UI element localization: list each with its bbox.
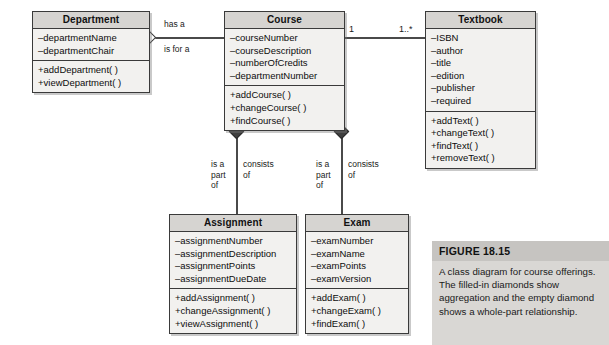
- operations-department: +addDepartment( ) +viewDepartment( ): [33, 61, 149, 92]
- edge-label-exam-consists-of: consists of: [348, 159, 379, 180]
- class-name-department: Department: [33, 12, 149, 29]
- attribute: –ISBN: [426, 32, 535, 45]
- operation: +findText( ): [426, 140, 535, 153]
- operation: +findExam( ): [306, 318, 408, 331]
- operations-exam: +addExam( ) +changeExam( ) +findExam( ): [306, 289, 408, 333]
- attribute: –examName: [306, 248, 408, 261]
- figure-caption-title: FIGURE 18.15: [432, 241, 609, 261]
- attribute: –assignmentPoints: [170, 260, 296, 273]
- class-box-course[interactable]: Course –courseNumber –courseDescription …: [224, 11, 345, 131]
- attributes-assignment: –assignmentNumber –assignmentDescription…: [170, 232, 296, 289]
- class-box-assignment[interactable]: Assignment –assignmentNumber –assignment…: [169, 214, 297, 334]
- attribute: –examPoints: [306, 260, 408, 273]
- operation: +viewAssignment( ): [170, 318, 296, 331]
- figure-caption-body: A class diagram for course offerings. Th…: [432, 261, 609, 323]
- class-box-department[interactable]: Department –departmentName –departmentCh…: [32, 11, 150, 93]
- attribute: –numberOfCredits: [225, 57, 344, 70]
- attribute: –assignmentDescription: [170, 248, 296, 261]
- attribute: –courseNumber: [225, 32, 344, 45]
- operation: +changeText( ): [426, 127, 535, 140]
- attribute: –assignmentNumber: [170, 235, 296, 248]
- class-name-course: Course: [225, 12, 344, 29]
- connector-course-exam: [341, 128, 343, 214]
- connector-course-textbook: [345, 37, 427, 39]
- class-diagram-canvas: has a is for a 1 1..* is a part of consi…: [0, 0, 609, 345]
- attributes-course: –courseNumber –courseDescription –number…: [225, 29, 344, 86]
- operation: +addCourse( ): [225, 89, 344, 102]
- operations-textbook: +addText( ) +changeText( ) +findText( ) …: [426, 112, 535, 168]
- operation: +viewDepartment( ): [33, 77, 149, 90]
- multiplicity-textbook-many: 1..*: [399, 24, 413, 34]
- attribute: –edition: [426, 70, 535, 83]
- attribute: –required: [426, 95, 535, 108]
- edge-label-has-a: has a: [164, 19, 185, 30]
- operation: +addDepartment( ): [33, 64, 149, 77]
- operation: +findCourse( ): [225, 115, 344, 128]
- attributes-textbook: –ISBN –author –title –edition –publisher…: [426, 29, 535, 112]
- operation: +addExam( ): [306, 292, 408, 305]
- attribute: –author: [426, 45, 535, 58]
- multiplicity-course-one: 1: [349, 24, 354, 34]
- operation: +removeText( ): [426, 152, 535, 165]
- attribute: –departmentName: [33, 32, 149, 45]
- attribute: –assignmentDueDate: [170, 273, 296, 286]
- operation: +addAssignment( ): [170, 292, 296, 305]
- edge-label-is-for-a: is for a: [164, 44, 190, 55]
- class-box-textbook[interactable]: Textbook –ISBN –author –title –edition –…: [425, 11, 536, 169]
- operation: +addText( ): [426, 115, 535, 128]
- attribute: –examNumber: [306, 235, 408, 248]
- operation: +changeExam( ): [306, 305, 408, 318]
- edge-label-assignment-part-of: is a part of: [211, 159, 226, 191]
- class-box-exam[interactable]: Exam –examNumber –examName –examPoints –…: [305, 214, 409, 334]
- attributes-exam: –examNumber –examName –examPoints –examV…: [306, 232, 408, 289]
- edge-label-exam-part-of: is a part of: [316, 159, 331, 191]
- operations-assignment: +addAssignment( ) +changeAssignment( ) +…: [170, 289, 296, 333]
- figure-caption: FIGURE 18.15 A class diagram for course …: [432, 241, 609, 345]
- attribute: –publisher: [426, 82, 535, 95]
- connector-course-assignment: [236, 128, 238, 214]
- operation: +changeAssignment( ): [170, 305, 296, 318]
- attribute: –examVersion: [306, 273, 408, 286]
- class-name-textbook: Textbook: [426, 12, 535, 29]
- class-name-exam: Exam: [306, 215, 408, 232]
- connector-department-course: [148, 37, 224, 39]
- class-name-assignment: Assignment: [170, 215, 296, 232]
- operations-course: +addCourse( ) +changeCourse( ) +findCour…: [225, 86, 344, 130]
- attribute: –departmentNumber: [225, 70, 344, 83]
- edge-label-assignment-consists-of: consists of: [243, 159, 274, 180]
- attributes-department: –departmentName –departmentChair: [33, 29, 149, 61]
- attribute: –title: [426, 57, 535, 70]
- attribute: –courseDescription: [225, 45, 344, 58]
- attribute: –departmentChair: [33, 45, 149, 58]
- operation: +changeCourse( ): [225, 102, 344, 115]
